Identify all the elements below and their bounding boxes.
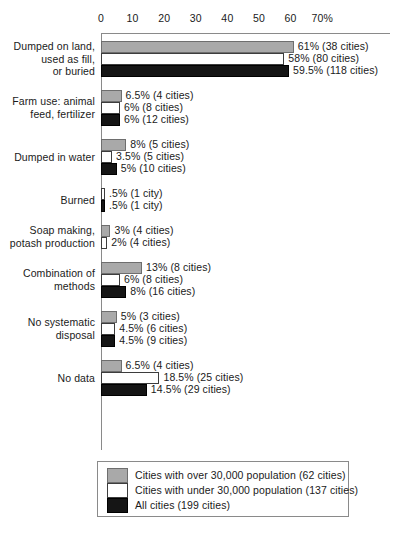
legend-label: All cities (199 cities) <box>135 498 230 513</box>
bar-value-label: 4.5% (9 cities) <box>119 334 187 347</box>
bar-under <box>101 53 284 65</box>
x-tick-10: 10 <box>127 12 139 24</box>
category-label: No systematic disposal <box>0 316 95 341</box>
horizontal-bar-chart: 010203040506070% Dumped on land, used as… <box>0 0 398 533</box>
bar-all <box>101 200 105 212</box>
bar-row: 59.5% (118 cities) <box>101 65 391 77</box>
bar-all <box>101 163 117 175</box>
bar-over <box>101 360 122 372</box>
bar-row: 8% (16 cities) <box>101 286 391 298</box>
bar-group: Farm use: animal feed, fertilizer6.5% (4… <box>0 90 398 126</box>
bar-under <box>101 102 120 114</box>
bar-group: No systematic disposal5% (3 cities)4.5% … <box>0 311 398 347</box>
bar-row: 6% (12 cities) <box>101 114 391 126</box>
category-label: Soap making, potash production <box>0 224 95 249</box>
legend-swatch-over <box>107 468 128 483</box>
x-axis-line <box>101 33 390 34</box>
bar-value-label: 59.5% (118 cities) <box>293 64 378 77</box>
bar-over <box>101 311 117 323</box>
bar-row: .5% (1 city) <box>101 200 391 212</box>
x-tick-50: 50 <box>253 12 265 24</box>
category-label: Dumped on land, used as fill, or buried <box>0 40 95 78</box>
bar-group: No data6.5% (4 cities)18.5% (25 cities)1… <box>0 360 398 396</box>
bar-over <box>101 90 122 102</box>
category-label: Burned <box>0 194 95 207</box>
category-label: Dumped in water <box>0 151 95 164</box>
bar-all <box>101 114 120 126</box>
bar-value-label: 2% (4 cities) <box>111 236 170 249</box>
x-tick-70: 70% <box>311 12 333 24</box>
x-tick-0: 0 <box>98 12 104 24</box>
bar-row: 2% (4 cities) <box>101 237 391 249</box>
bar-value-label: 14.5% (29 cities) <box>151 383 231 396</box>
bar-group: Soap making, potash production3% (4 citi… <box>0 225 398 249</box>
bar-over <box>101 225 110 237</box>
category-label: Farm use: animal feed, fertilizer <box>0 95 95 120</box>
bar-under <box>101 188 105 200</box>
category-label: No data <box>0 372 95 385</box>
bar-group: Dumped in water8% (5 cities)3.5% (5 citi… <box>0 139 398 175</box>
bar-under <box>101 323 115 335</box>
bar-all <box>101 286 126 298</box>
bar-value-label: .5% (1 city) <box>109 199 163 212</box>
x-tick-30: 30 <box>190 12 202 24</box>
category-label: Combination of methods <box>0 267 95 292</box>
bar-all <box>101 335 115 347</box>
x-tick-60: 60 <box>285 12 297 24</box>
bar-row: 5% (10 cities) <box>101 163 391 175</box>
bar-all <box>101 65 289 77</box>
bar-group: Dumped on land, used as fill, or buried6… <box>0 41 398 77</box>
bar-under <box>101 151 112 163</box>
bar-row: 18.5% (25 cities) <box>101 372 391 384</box>
bar-group: Combination of methods13% (8 cities)6% (… <box>0 262 398 298</box>
legend-swatch-all <box>107 498 128 513</box>
bar-group: Burned.5% (1 city).5% (1 city) <box>0 188 398 212</box>
x-tick-40: 40 <box>221 12 233 24</box>
legend-label: Cities with under 30,000 population (137… <box>135 483 358 498</box>
bar-value-label: 5% (10 cities) <box>121 162 186 175</box>
bar-row: 6.5% (4 cities) <box>101 360 391 372</box>
bar-row: 4.5% (9 cities) <box>101 335 391 347</box>
legend-label: Cities with over 30,000 population (62 c… <box>135 468 346 483</box>
bar-row: 14.5% (29 cities) <box>101 384 391 396</box>
bar-all <box>101 384 147 396</box>
bar-under <box>101 237 107 249</box>
chart-legend: Cities with over 30,000 population (62 c… <box>97 461 349 517</box>
bar-value-label: 6% (12 cities) <box>124 113 189 126</box>
x-tick-20: 20 <box>158 12 170 24</box>
bar-under <box>101 274 120 286</box>
bar-over <box>101 41 294 53</box>
legend-swatch-under <box>107 483 128 498</box>
bar-value-label: 8% (16 cities) <box>130 285 195 298</box>
